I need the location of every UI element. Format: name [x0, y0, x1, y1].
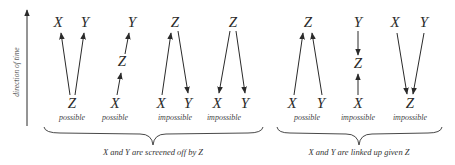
brace-screened-off: X and Y are screened off by Z — [44, 127, 263, 157]
diagram-4: Z X Y impossible — [207, 14, 251, 122]
diagram-3: Z X Y impossible — [155, 14, 193, 122]
diagram-7: X Y Z impossible — [389, 14, 429, 122]
node-z: Z — [406, 95, 415, 111]
node-z: Z — [304, 14, 313, 30]
node-y: Y — [420, 14, 430, 30]
brace-icon — [44, 127, 263, 145]
diagram-2: Y Z X possible — [101, 14, 138, 122]
node-z: Z — [68, 95, 77, 111]
arrow-icon — [162, 33, 171, 95]
node-x: X — [109, 95, 120, 111]
diagram-5: Z X Y possible — [286, 14, 326, 122]
arrow-icon — [61, 33, 70, 95]
group-caption: X and Y are screened off by Z — [102, 147, 203, 157]
arrow-icon — [219, 31, 230, 93]
arrow-icon — [413, 33, 424, 94]
diagram-label: possible — [101, 113, 129, 122]
node-z: Z — [118, 53, 127, 69]
brace-linked-up: X and Y are linked up given Z — [277, 127, 442, 157]
node-y: Y — [317, 95, 327, 111]
diagram-label: impossible — [393, 113, 428, 122]
diagram-1: X Y Z possible — [52, 14, 90, 122]
node-y: Y — [184, 95, 194, 111]
node-x: X — [52, 14, 63, 30]
node-x: X — [286, 95, 297, 111]
node-x: X — [352, 95, 363, 111]
node-z: Z — [229, 14, 238, 30]
arrow-icon — [236, 31, 245, 93]
diagram-label: impossible — [207, 113, 242, 122]
diagram-label: possible — [58, 113, 86, 122]
node-z: Z — [354, 55, 363, 71]
time-axis: direction of time — [12, 10, 27, 126]
brace-icon — [277, 127, 442, 145]
node-y: Y — [81, 14, 91, 30]
diagram-label: possible — [293, 113, 321, 122]
arrow-icon — [117, 73, 121, 95]
causal-diagram: direction of time X Y Z possible Y Z X p… — [0, 0, 455, 165]
diagram-label: impossible — [158, 113, 193, 122]
diagram-label: impossible — [341, 113, 376, 122]
axis-label: direction of time — [12, 47, 21, 97]
node-x: X — [211, 95, 222, 111]
arrow-icon — [294, 33, 303, 95]
arrow-icon — [125, 33, 129, 54]
node-y: Y — [128, 14, 138, 30]
node-y: Y — [354, 14, 364, 30]
arrow-icon — [178, 31, 188, 93]
group-caption: X and Y are linked up given Z — [308, 147, 410, 157]
arrow-icon — [312, 33, 322, 95]
node-z: Z — [171, 14, 180, 30]
diagram-6: Y Z X impossible — [341, 14, 376, 122]
node-x: X — [155, 95, 166, 111]
node-x: X — [389, 14, 400, 30]
arrow-icon — [397, 33, 407, 94]
arrow-icon — [75, 33, 84, 95]
node-y: Y — [241, 95, 251, 111]
